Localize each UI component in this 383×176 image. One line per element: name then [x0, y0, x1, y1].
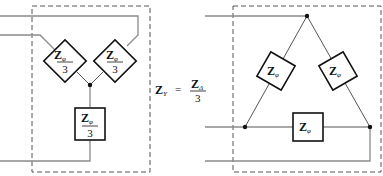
wye-wire-middle: [0, 35, 55, 50]
delta-node-left: [243, 125, 247, 129]
svg-text:3: 3: [87, 127, 93, 139]
delta-wire-bottom: [205, 127, 370, 161]
delta-circuit: Zφ Zφ Zφ: [205, 6, 381, 172]
wye-enclosure: [32, 6, 150, 172]
equation-rhs-numerator: ZΔ: [191, 77, 203, 92]
equation-equals: =: [175, 83, 181, 95]
wye-impedance-bottom: Zφ 3: [75, 108, 105, 140]
delta-impedance-right: Zφ: [319, 52, 357, 90]
delta-impedance-left: Zφ: [257, 52, 295, 90]
conversion-equation: ZY = ZΔ 3: [155, 77, 206, 104]
svg-text:3: 3: [62, 63, 68, 75]
delta-impedance-bottom: Zφ: [293, 113, 323, 141]
svg-text:3: 3: [112, 63, 118, 75]
wye-impedance-left: Zφ 3: [44, 40, 86, 82]
equation-lhs: ZY: [155, 83, 168, 98]
wye-wire-bottom: [0, 140, 90, 161]
wye-circuit: Zφ 3 Zφ 3 Zφ 3: [0, 6, 150, 172]
wye-neutral-node: [88, 83, 92, 87]
wye-wire-right-to-node: [90, 72, 103, 85]
wye-impedance-right: Zφ 3: [94, 40, 136, 82]
delta-node-right: [368, 125, 372, 129]
delta-wye-diagram: Zφ 3 Zφ 3 Zφ 3 ZY =: [0, 0, 383, 176]
equation-rhs-denominator: 3: [195, 92, 201, 104]
wye-wire-left-to-node: [77, 72, 90, 85]
delta-enclosure: [233, 6, 381, 172]
delta-node-top: [305, 14, 309, 18]
